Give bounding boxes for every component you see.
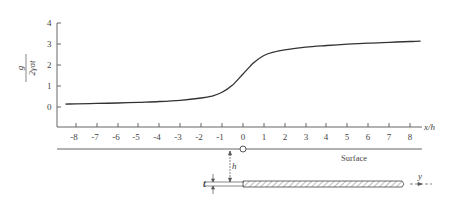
t-label: t <box>203 178 207 189</box>
x-tick-labels: -8 -7 -6 -5 -4 -3 -2 -1 0 1 2 3 4 5 6 7 … <box>70 132 413 142</box>
x-tick: -4 <box>153 132 161 142</box>
y-direction-label: y <box>417 171 422 181</box>
x-tick: 7 <box>387 132 392 142</box>
figure-canvas: 4 3 2 1 0 g 2γσt -8 -7 -6 -5 -4 <box>0 0 452 206</box>
x-tick: -8 <box>70 132 78 142</box>
y-tick: 3 <box>47 39 52 49</box>
x-tick: 5 <box>345 132 350 142</box>
x-tick: 4 <box>324 132 329 142</box>
y-label-denominator: 2γσt <box>27 60 37 75</box>
y-tick: 4 <box>47 18 52 28</box>
x-tick: 6 <box>366 132 371 142</box>
t-dimension <box>205 174 244 194</box>
x-tick: 0 <box>241 132 246 142</box>
y-tick: 2 <box>47 60 52 70</box>
x-tick: -7 <box>91 132 99 142</box>
x-tick: -6 <box>112 132 120 142</box>
x-tick: 3 <box>304 132 309 142</box>
data-curve <box>65 41 420 104</box>
h-label: h <box>232 161 237 171</box>
y-label-numerator: g <box>15 65 25 70</box>
y-tick: 0 <box>47 102 52 112</box>
x-tick: -3 <box>174 132 182 142</box>
origin-marker <box>240 146 246 152</box>
y-tick-labels: 4 3 2 1 0 <box>47 18 52 112</box>
y-axis-label: g 2γσt <box>15 54 37 82</box>
x-tick: 1 <box>262 132 267 142</box>
x-tick: 2 <box>283 132 288 142</box>
x-tick: -1 <box>216 132 224 142</box>
x-axis <box>57 123 422 127</box>
y-direction-arrow <box>410 183 432 186</box>
surface: Surface <box>57 146 422 163</box>
y-axis <box>57 23 61 127</box>
x-tick: 8 <box>408 132 413 142</box>
x-axis-label: x/h <box>423 122 435 132</box>
surface-label: Surface <box>341 153 367 163</box>
y-tick: 1 <box>47 81 52 91</box>
plate <box>243 181 404 187</box>
x-tick: -5 <box>132 132 140 142</box>
x-tick: -2 <box>195 132 203 142</box>
